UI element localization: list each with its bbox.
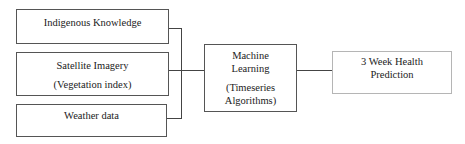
output-label-line-1: 3 Week Health bbox=[333, 55, 451, 68]
input-box-indigenous-knowledge: Indigenous Knowledge bbox=[16, 9, 169, 44]
connector-model-to-output bbox=[297, 70, 332, 71]
model-label-line-3: (Timeseries bbox=[205, 81, 296, 94]
model-label-line-2: Learning bbox=[205, 62, 296, 75]
input-box-weather-data: Weather data bbox=[16, 104, 167, 137]
input-label: Indigenous Knowledge bbox=[17, 16, 168, 29]
connector-bus-to-model bbox=[181, 70, 204, 71]
model-label-line-4: Algorithms) bbox=[205, 94, 296, 107]
input-label: Satellite Imagery bbox=[17, 59, 168, 72]
model-box-machine-learning: Machine Learning (Timeseries Algorithms) bbox=[204, 44, 297, 112]
output-label-line-2: Prediction bbox=[333, 68, 451, 81]
input-sublabel: (Vegetation index) bbox=[17, 78, 168, 91]
output-box-health-prediction: 3 Week Health Prediction bbox=[332, 51, 452, 94]
connector-input-3 bbox=[167, 118, 182, 119]
connector-bus-vertical bbox=[181, 28, 182, 119]
input-box-satellite-imagery: Satellite Imagery (Vegetation index) bbox=[16, 52, 169, 96]
model-label-line-1: Machine bbox=[205, 49, 296, 62]
input-label: Weather data bbox=[17, 109, 166, 122]
